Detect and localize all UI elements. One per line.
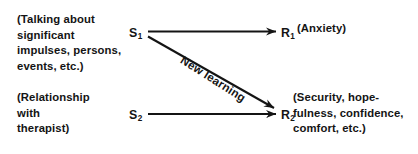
node-response-2-letter: R <box>281 108 290 122</box>
stimulus-1-description: (Talking about significant impulses, per… <box>17 12 137 74</box>
node-stimulus-1-subscript: 1 <box>138 32 143 41</box>
stimulus-2-description: (Relationship with therapist) <box>17 90 137 137</box>
node-stimulus-1: S1 <box>129 26 142 40</box>
node-response-1-letter: R <box>281 26 290 40</box>
node-stimulus-2: S2 <box>129 108 142 122</box>
node-stimulus-2-subscript: 2 <box>138 114 143 123</box>
node-stimulus-1-letter: S <box>129 26 137 40</box>
node-response-1: R1 <box>281 26 295 40</box>
node-response-1-subscript: 1 <box>290 32 295 41</box>
response-1-description: (Anxiety) <box>297 21 407 37</box>
node-stimulus-2-letter: S <box>129 108 137 122</box>
node-response-2-subscript: 2 <box>290 114 295 123</box>
response-2-description: (Security, hope- fulness, confidence, co… <box>293 90 415 137</box>
node-response-2: R2 <box>281 108 295 122</box>
